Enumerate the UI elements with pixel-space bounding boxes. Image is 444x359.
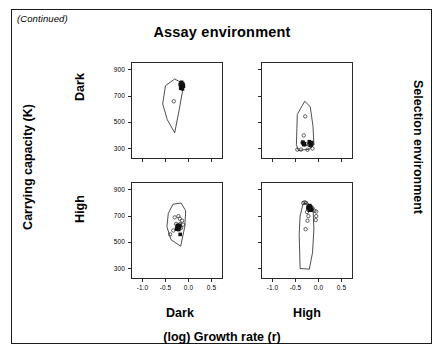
- x-tick-mark: [142, 279, 143, 282]
- x-tick-mark: [211, 159, 212, 162]
- x-tick-mark: [295, 159, 296, 162]
- right-axis-title: Selection environment: [411, 47, 425, 247]
- y-tick-mark: [128, 242, 131, 243]
- row-label-high: High: [73, 174, 87, 244]
- x-tick-mark: [188, 279, 189, 282]
- y-tick-label: 900: [99, 186, 125, 193]
- y-tick-mark: [128, 96, 131, 97]
- x-tick-mark: [272, 279, 273, 282]
- y-tick-mark: [128, 189, 131, 190]
- data-point-open: [311, 147, 314, 150]
- y-tick-mark: [128, 69, 131, 70]
- y-tick-mark: [258, 242, 261, 243]
- y-tick-label: 700: [99, 212, 125, 219]
- scatter-layer: [261, 182, 353, 279]
- top-axis-title: Assay environment: [0, 24, 444, 40]
- y-tick-label: 500: [99, 118, 125, 125]
- y-tick-mark: [128, 268, 131, 269]
- data-point-open: [173, 216, 176, 219]
- y-tick-label: 500: [99, 238, 125, 245]
- y-tick-label: 700: [99, 92, 125, 99]
- column-label-high: High: [262, 306, 352, 320]
- x-tick-mark: [272, 159, 273, 162]
- y-tick-mark: [258, 96, 261, 97]
- data-point-filled: [177, 228, 181, 232]
- data-point-open: [172, 100, 175, 103]
- x-tick-mark: [211, 279, 212, 282]
- data-point-filled: [310, 141, 314, 145]
- data-point-filled: [178, 83, 182, 87]
- panel-high-high: -1.0-0.50.00.5: [261, 182, 353, 279]
- convex-hull-polygon: [299, 203, 314, 269]
- data-point-open: [180, 219, 183, 222]
- scatter-layer: [131, 182, 223, 279]
- x-tick-mark: [142, 159, 143, 162]
- x-tick-mark: [341, 159, 342, 162]
- continued-note: (Continued): [17, 13, 68, 24]
- x-tick-mark: [165, 279, 166, 282]
- data-point-open: [302, 134, 305, 137]
- y-tick-label: 300: [99, 145, 125, 152]
- y-tick-mark: [128, 148, 131, 149]
- panel-dark-dark: 300500700900: [131, 62, 223, 159]
- data-point-open: [314, 218, 317, 221]
- x-tick-label: 0.5: [329, 284, 355, 291]
- data-point-filled: [310, 208, 314, 212]
- y-tick-mark: [258, 69, 261, 70]
- y-tick-mark: [258, 268, 261, 269]
- y-tick-label: 900: [99, 66, 125, 73]
- x-tick-mark: [318, 159, 319, 162]
- panel-high-dark: 300500700900-1.0-0.50.00.5: [131, 182, 223, 279]
- y-tick-mark: [128, 216, 131, 217]
- bottom-axis-title: (log) Growth rate (r): [0, 330, 444, 344]
- scatter-layer: [131, 62, 223, 159]
- x-tick-mark: [165, 159, 166, 162]
- data-point-open: [306, 219, 309, 222]
- x-tick-mark: [295, 279, 296, 282]
- y-tick-label: 300: [99, 265, 125, 272]
- data-point-open: [315, 214, 318, 217]
- left-axis-title: Carrying capacity (K): [21, 67, 35, 267]
- y-tick-mark: [258, 216, 261, 217]
- data-point-filled: [302, 142, 306, 146]
- column-label-dark: Dark: [135, 306, 225, 320]
- y-tick-mark: [258, 122, 261, 123]
- x-tick-mark: [188, 159, 189, 162]
- data-point-filled: [178, 233, 182, 237]
- x-tick-mark: [341, 279, 342, 282]
- panel-dark-high: [261, 62, 353, 159]
- y-tick-mark: [128, 122, 131, 123]
- figure-container: (Continued) Assay environment Carrying c…: [0, 0, 444, 359]
- data-point-open: [304, 115, 307, 118]
- data-point-open: [304, 228, 307, 231]
- data-point-open: [307, 214, 310, 217]
- scatter-layer: [261, 62, 353, 159]
- row-label-dark: Dark: [73, 52, 87, 122]
- y-tick-mark: [258, 148, 261, 149]
- data-point-open: [172, 229, 175, 232]
- data-point-filled: [181, 87, 185, 91]
- x-tick-label: 0.5: [199, 284, 225, 291]
- data-point-open: [299, 148, 302, 151]
- x-tick-mark: [318, 279, 319, 282]
- y-tick-mark: [258, 189, 261, 190]
